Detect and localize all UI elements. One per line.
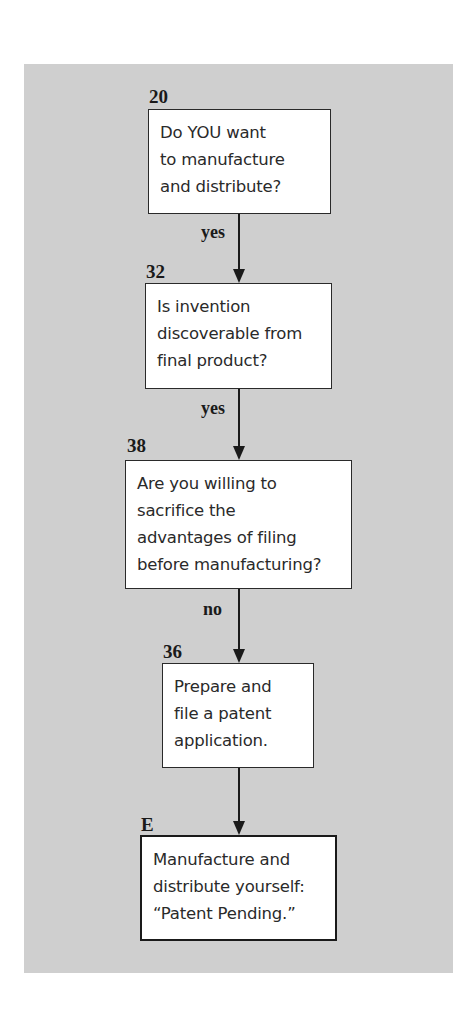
arrow-down-icon [233,446,245,460]
connector-line [238,389,240,446]
box-text-line: distribute yourself: [153,873,325,900]
action-box-file-patent: Prepare and file a patent application. [162,663,314,768]
node-number-32: 32 [146,262,165,281]
box-text-line: advantages of filing [137,524,341,551]
node-number-e: E [141,815,154,834]
box-text-line: file a patent [174,700,303,727]
box-text-line: Do YOU want [160,119,320,146]
box-text-line: final product? [157,347,321,374]
box-text-line: “Patent Pending.” [153,900,325,927]
decision-box-sacrifice-advantages: Are you willing to sacrifice the advanta… [125,460,352,589]
connector-line [238,589,240,650]
edge-label-yes: yes [201,223,225,241]
box-text-line: Prepare and [174,673,303,700]
box-text-line: sacrifice the [137,497,341,524]
connector-line [238,768,240,822]
box-text-line: and distribute? [160,173,320,200]
box-text-line: to manufacture [160,146,320,173]
decision-box-manufacture-distribute: Do YOU want to manufacture and distribut… [148,109,331,214]
arrow-down-icon [233,269,245,283]
node-number-38: 38 [127,436,146,455]
box-text-line: application. [174,727,303,754]
arrow-down-icon [233,649,245,663]
box-text-line: Is invention [157,293,321,320]
edge-label-yes: yes [201,399,225,417]
box-text-line: discoverable from [157,320,321,347]
connector-line [238,214,240,270]
node-number-36: 36 [163,642,182,661]
box-text-line: Are you willing to [137,470,341,497]
terminal-box-patent-pending: Manufacture and distribute yourself: “Pa… [140,835,337,941]
edge-label-no: no [203,600,222,618]
arrow-down-icon [233,821,245,835]
node-number-20: 20 [149,87,168,106]
box-text-line: Manufacture and [153,846,325,873]
decision-box-invention-discoverable: Is invention discoverable from final pro… [145,283,332,389]
box-text-line: before manufacturing? [137,551,341,578]
